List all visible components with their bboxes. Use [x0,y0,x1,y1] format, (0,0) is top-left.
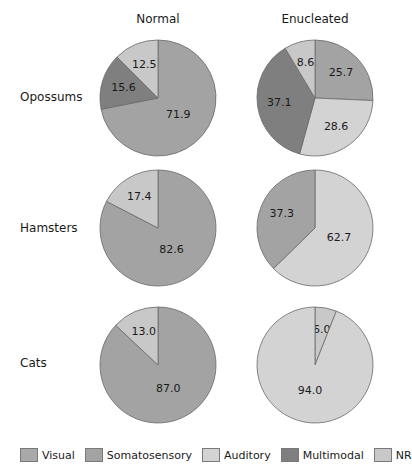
pie-grid: 71.915.612.525.728.637.18.682.617.462.73… [0,0,412,440]
legend-label: Auditory [224,449,271,462]
legend-label: Multimodal [303,449,364,462]
pie-value-label: 71.9 [166,108,191,121]
pie-value-label: 62.7 [327,231,352,244]
legend-swatch [85,448,103,462]
pie-hamsters-enucleated: 62.737.3 [257,170,373,286]
pie-value-label: 25.7 [329,66,354,79]
legend: VisualSomatosensoryAuditoryMultimodalNR [20,448,412,462]
legend-item-auditory: Auditory [202,448,271,462]
legend-item-multimodal: Multimodal [281,448,364,462]
pie-opossums-enucleated: 25.728.637.18.6 [257,40,373,156]
pie-value-label: 12.5 [132,58,157,71]
pie-hamsters-normal: 82.617.4 [100,170,216,286]
pie-cats-normal: 87.013.0 [100,307,216,423]
legend-item-nr: NR [374,448,412,462]
legend-swatch [281,448,299,462]
legend-label: Somatosensory [107,449,192,462]
pie-value-label: 94.0 [298,384,323,397]
pie-value-label: 87.0 [156,382,181,395]
legend-swatch [20,448,38,462]
pie-value-label: 37.1 [267,96,292,109]
pie-value-label: 28.6 [324,120,349,133]
pie-cats-enucleated: 6.094.0 [257,307,373,423]
pie-value-label: 8.6 [297,56,315,69]
legend-swatch [202,448,220,462]
pie-opossums-normal: 71.915.612.5 [100,40,216,156]
pie-value-label: 37.3 [270,207,295,220]
legend-label: Visual [42,449,75,462]
pie-value-label: 15.6 [111,81,136,94]
legend-label: NR [396,449,412,462]
pie-value-label: 13.0 [131,325,156,338]
legend-item-visual: Visual [20,448,75,462]
legend-item-somatosensory: Somatosensory [85,448,192,462]
pie-slice-auditory [257,307,373,423]
pie-value-label: 82.6 [159,243,184,256]
pie-value-label: 17.4 [127,190,152,203]
legend-swatch [374,448,392,462]
